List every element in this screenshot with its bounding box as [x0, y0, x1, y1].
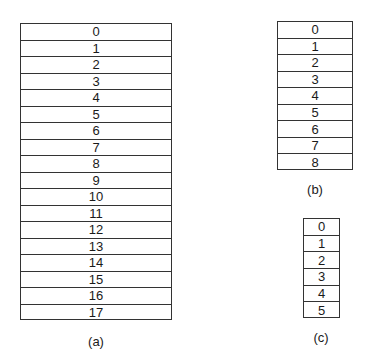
table-cell: 7 [278, 137, 352, 154]
table-cell: 1 [278, 38, 352, 55]
table-cell: 2 [304, 251, 339, 268]
table-cell: 1 [21, 40, 171, 57]
table-cell: 5 [21, 106, 171, 123]
table-cell: 5 [304, 301, 339, 318]
caption-b: (b) [295, 182, 335, 197]
table-cell: 14 [21, 254, 171, 271]
table-cell: 2 [21, 56, 171, 73]
table-cell: 6 [21, 122, 171, 139]
table-c: 012345 [303, 218, 340, 318]
caption-a: (a) [76, 334, 116, 349]
table-cell: 8 [278, 153, 352, 170]
table-cell: 0 [304, 218, 339, 235]
table-cell: 9 [21, 172, 171, 189]
table-cell: 10 [21, 188, 171, 205]
table-cell: 12 [21, 221, 171, 238]
table-cell: 1 [304, 235, 339, 252]
table-cell: 4 [21, 89, 171, 106]
table-cell: 6 [278, 120, 352, 137]
table-cell: 2 [278, 54, 352, 71]
table-cell: 13 [21, 238, 171, 255]
table-cell: 3 [21, 73, 171, 90]
table-b: 012345678 [277, 21, 353, 170]
table-cell: 0 [21, 23, 171, 40]
table-cell: 5 [278, 104, 352, 121]
table-cell: 8 [21, 155, 171, 172]
table-cell: 3 [278, 71, 352, 88]
table-cell: 4 [278, 87, 352, 104]
table-cell: 0 [278, 21, 352, 38]
table-cell: 17 [21, 304, 171, 321]
table-cell: 3 [304, 268, 339, 285]
table-cell: 7 [21, 139, 171, 156]
table-cell: 15 [21, 271, 171, 288]
table-cell: 16 [21, 287, 171, 304]
table-cell: 4 [304, 285, 339, 302]
table-a: 01234567891011121314151617 [20, 23, 172, 320]
table-cell: 11 [21, 205, 171, 222]
caption-c: (c) [301, 330, 341, 345]
